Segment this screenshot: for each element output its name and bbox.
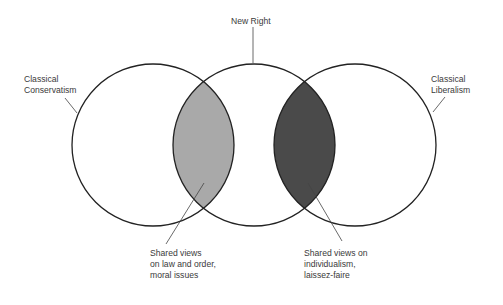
label-line: Conservatism [24, 85, 77, 96]
label-line: Shared views on [304, 248, 368, 259]
label-line: laissez-faire [304, 270, 368, 281]
label-line: Liberalism [431, 85, 470, 96]
label-shared-individualism: Shared views on individualism, laissez-f… [304, 248, 368, 281]
label-line: Shared views [150, 248, 216, 259]
leader-line-individualism [308, 183, 342, 241]
label-classical-liberalism: Classical Liberalism [431, 74, 470, 96]
label-line: on law and order, [150, 259, 216, 270]
leader-line-liberalism [433, 97, 445, 112]
label-line: individualism, [304, 259, 368, 270]
label-line: Classical [431, 74, 470, 85]
leader-line-conservatism [65, 98, 77, 113]
label-line: New Right [231, 16, 271, 27]
leader-line-law-order [166, 183, 204, 244]
label-line: Classical [24, 74, 77, 85]
label-classical-conservatism: Classical Conservatism [24, 74, 77, 96]
label-shared-law-order: Shared views on law and order, moral iss… [150, 248, 216, 281]
venn-diagram [0, 0, 503, 305]
label-new-right: New Right [231, 16, 271, 27]
label-line: moral issues [150, 270, 216, 281]
